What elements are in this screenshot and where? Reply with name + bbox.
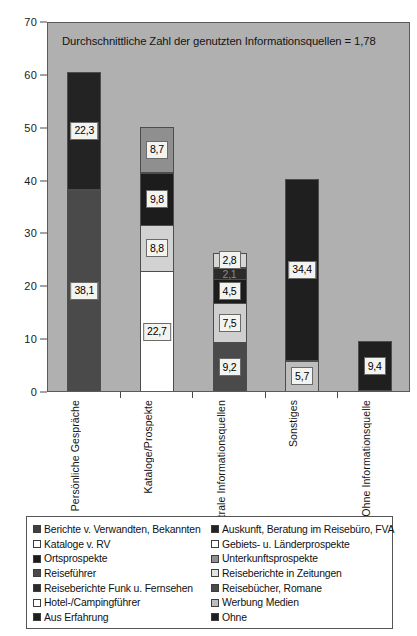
legend-item-label: Werbung Medien: [222, 597, 299, 608]
bar-segment-value-label: 9,2: [219, 358, 241, 376]
y-axis: 010203040506070: [0, 14, 47, 394]
y-axis-tick-mark: [40, 22, 47, 23]
bar-segment-value-label: 38,1: [70, 282, 98, 300]
legend-item-label: Kataloge v. RV: [44, 539, 110, 550]
bar-segment-value-label: 5,7: [291, 367, 313, 385]
legend-column-right: Auskunft, Beratung im Reisebüro, FVAGebi…: [211, 522, 393, 625]
legend-item-label: Reisebücher, Romane: [222, 583, 322, 594]
legend-swatch-icon: [211, 613, 219, 621]
x-axis-category-label: Kataloge/Prospekte: [142, 400, 170, 493]
y-axis-tick-label: 70: [24, 16, 37, 28]
legend-item: Auskunft, Beratung im Reisebüro, FVA: [211, 522, 393, 537]
legend-swatch-icon: [211, 540, 219, 548]
bar-segment: 7,5: [213, 303, 247, 343]
legend-item-label: Hotel-/Campingführer: [44, 597, 140, 608]
bar-segment: 9,4: [358, 341, 392, 391]
legend-swatch-icon: [33, 569, 41, 577]
y-axis-tick-mark: [40, 339, 47, 340]
legend-item: Ortsprospekte: [33, 551, 213, 566]
legend-item-label: Reiseberichte in Zeitungen: [222, 568, 342, 579]
bar-segment: 2,1: [213, 268, 247, 279]
y-axis-tick-label: 30: [24, 227, 37, 239]
legend-swatch-icon: [33, 584, 41, 592]
legend-item: Ohne: [211, 610, 393, 625]
bar-segment-value-label: 2,1: [223, 269, 237, 280]
legend-item-label: Auskunft, Beratung im Reisebüro, FVA: [222, 524, 394, 535]
bar-column: 38,122,3: [67, 72, 101, 391]
x-axis: Persönliche GesprächeKataloge/ProspekteN…: [47, 392, 410, 512]
bar-segment-value-label: 9,8: [146, 190, 168, 208]
legend-column-left: Berichte v. Verwandten, BekanntenKatalog…: [33, 522, 213, 625]
bar-segment: 9,2: [213, 342, 247, 391]
legend-swatch-icon: [211, 555, 219, 563]
legend-item: Reisebücher, Romane: [211, 581, 393, 596]
legend-swatch-icon: [33, 599, 41, 607]
legend-item-label: Berichte v. Verwandten, Bekannten: [44, 524, 201, 535]
x-axis-category-label: Ohne Informationsquelle: [360, 400, 388, 517]
legend-item-label: Ohne: [222, 612, 247, 623]
legend-swatch-icon: [211, 525, 219, 533]
bar-segment-value-label: 8,7: [146, 141, 168, 159]
y-axis-tick-mark: [40, 74, 47, 75]
bar-column: 22,78,89,88,7: [140, 127, 174, 391]
legend-item-label: Ortsprospekte: [44, 553, 107, 564]
legend-swatch-icon: [211, 584, 219, 592]
legend-item-label: Unterkunftsprospekte: [222, 553, 318, 564]
legend-item: Kataloge v. RV: [33, 537, 213, 552]
legend-swatch-icon: [211, 599, 219, 607]
bar-segment: 8,7: [140, 127, 174, 173]
bar-segment: 9,8: [140, 173, 174, 225]
y-axis-tick-label: 50: [24, 122, 37, 134]
bar-segment-value-label: 22,7: [143, 323, 171, 341]
legend-item: Hotel-/Campingführer: [33, 595, 213, 610]
bar-segment-value-label: 34,4: [288, 261, 316, 279]
bar-segment: 22,3: [67, 72, 101, 190]
legend-item-label: Aus Erfahrung: [44, 612, 108, 623]
bar-segment: 8,8: [140, 225, 174, 272]
legend-swatch-icon: [33, 540, 41, 548]
legend-swatch-icon: [33, 555, 41, 563]
y-axis-tick-label: 60: [24, 69, 37, 81]
x-axis-tick-mark: [120, 392, 121, 398]
legend-item: Aus Erfahrung: [33, 610, 213, 625]
bar-segment: 38,1: [67, 190, 101, 391]
bar-segment: 4,5: [213, 279, 247, 303]
legend-swatch-icon: [211, 569, 219, 577]
bar-segment: 5,7: [285, 361, 319, 391]
legend-item: Berichte v. Verwandten, Bekannten: [33, 522, 213, 537]
legend-item: Reiseberichte in Zeitungen: [211, 566, 393, 581]
bar-segment-value-label: 7,5: [219, 314, 241, 332]
bar-segment-value-label: 22,3: [70, 122, 98, 140]
chart-legend: Berichte v. Verwandten, BekanntenKatalog…: [26, 516, 393, 629]
legend-item: Gebiets- u. Länderprospekte: [211, 537, 393, 552]
bar-segment-value-label: 4,5: [219, 282, 241, 300]
legend-swatch-icon: [33, 613, 41, 621]
x-axis-tick-mark: [265, 392, 266, 398]
legend-item: Reiseberichte Funk u. Fernsehen: [33, 581, 213, 596]
legend-item-label: Gebiets- u. Länderprospekte: [222, 539, 350, 550]
y-axis-tick-mark: [40, 233, 47, 234]
bar-segment-value-label: 8,8: [146, 239, 168, 257]
y-axis-tick-mark: [40, 127, 47, 128]
y-axis-tick-mark: [40, 392, 47, 393]
bar-column: 9,4: [358, 341, 392, 391]
bar-segment: 2,8: [213, 253, 247, 268]
legend-item-label: Reiseführer: [44, 568, 96, 579]
x-axis-tick-mark: [337, 392, 338, 398]
bar-segment: 22,7: [140, 271, 174, 391]
y-axis-tick-label: 0: [31, 386, 37, 398]
y-axis-tick-mark: [40, 286, 47, 287]
legend-swatch-icon: [33, 525, 41, 533]
bar-column: 5,734,4: [285, 179, 319, 391]
x-axis-category-label: Persönliche Gespräche: [69, 400, 97, 511]
legend-item: Reiseführer: [33, 566, 213, 581]
bar-segment-value-label: 2,8: [219, 251, 241, 269]
x-axis-tick-mark: [192, 392, 193, 398]
chart-plot-area: Durchschnittliche Zahl der genutzten Inf…: [47, 22, 410, 392]
y-axis-tick-label: 20: [24, 280, 37, 292]
x-axis-category-label: Sonstiges: [287, 400, 315, 447]
bar-column: 9,27,54,52,12,8: [213, 253, 247, 391]
legend-item: Unterkunftsprospekte: [211, 551, 393, 566]
y-axis-tick-label: 40: [24, 175, 37, 187]
legend-item-label: Reiseberichte Funk u. Fernsehen: [44, 583, 193, 594]
